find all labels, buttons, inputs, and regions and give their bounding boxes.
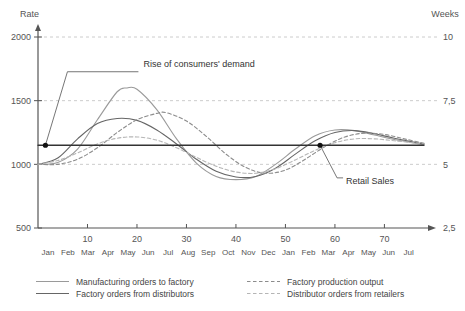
month-label-15: Apr bbox=[342, 248, 355, 257]
series-line-3 bbox=[38, 137, 424, 174]
y2-tick-label-2: 7,5 bbox=[443, 96, 456, 106]
annotation-label-1: Retail Sales bbox=[346, 176, 395, 186]
annotation-point-0 bbox=[43, 143, 48, 148]
series-line-1 bbox=[38, 118, 424, 177]
supply-chain-bullwhip-chart: 500100015002000Rate2,557,510Weeks1020304… bbox=[0, 0, 465, 311]
y2-tick-label-1: 5 bbox=[443, 160, 448, 170]
chart-canvas: 500100015002000Rate2,557,510Weeks1020304… bbox=[0, 0, 465, 311]
annotation-leader-0 bbox=[45, 72, 138, 145]
month-label-14: Mar bbox=[322, 248, 336, 257]
month-label-0: Jan bbox=[41, 248, 54, 257]
x-tick-label-60: 60 bbox=[330, 234, 340, 244]
y2-tick-label-0: 2,5 bbox=[443, 223, 456, 233]
month-label-4: May bbox=[121, 248, 136, 257]
annotation-label-0: Rise of consumers' demand bbox=[143, 59, 254, 69]
month-label-8: Sep bbox=[201, 248, 216, 257]
month-label-10: Nov bbox=[241, 248, 255, 257]
y-tick-label-500: 500 bbox=[16, 223, 31, 233]
annotation-point-1 bbox=[317, 143, 322, 148]
x-tick-label-50: 50 bbox=[280, 234, 290, 244]
month-label-3: Apr bbox=[102, 248, 115, 257]
y-axis-arrow bbox=[35, 24, 41, 31]
month-label-5: Jun bbox=[142, 248, 155, 257]
x-tick-label-70: 70 bbox=[379, 234, 389, 244]
y-tick-label-1000: 1000 bbox=[11, 160, 31, 170]
month-label-7: Aug bbox=[181, 248, 195, 257]
month-label-18: Jul bbox=[404, 248, 414, 257]
y2-tick-label-3: 10 bbox=[443, 32, 453, 42]
legend-label-0: Manufacturing orders to factory bbox=[76, 277, 194, 287]
legend-label-2: Factory production output bbox=[287, 277, 384, 287]
month-label-12: Jan bbox=[282, 248, 295, 257]
y-tick-label-2000: 2000 bbox=[11, 32, 31, 42]
month-label-11: Dec bbox=[261, 248, 275, 257]
x-tick-label-40: 40 bbox=[231, 234, 241, 244]
x-tick-label-10: 10 bbox=[82, 234, 92, 244]
x-tick-label-30: 30 bbox=[181, 234, 191, 244]
month-label-16: May bbox=[361, 248, 376, 257]
legend-label-3: Distributor orders from retailers bbox=[287, 289, 404, 299]
month-label-17: Jun bbox=[382, 248, 395, 257]
month-label-2: Mar bbox=[81, 248, 95, 257]
x-axis-arrow bbox=[428, 225, 436, 231]
month-label-13: Feb bbox=[302, 248, 316, 257]
y2-axis-title: Weeks bbox=[431, 9, 459, 19]
legend-label-1: Factory orders from distributors bbox=[76, 289, 194, 299]
annotation-leader-1 bbox=[320, 145, 343, 178]
y-axis-title: Rate bbox=[20, 9, 39, 19]
x-tick-label-20: 20 bbox=[132, 234, 142, 244]
y-tick-label-1500: 1500 bbox=[11, 96, 31, 106]
month-label-9: Oct bbox=[222, 248, 235, 257]
month-label-6: Jul bbox=[163, 248, 173, 257]
month-label-1: Feb bbox=[61, 248, 75, 257]
